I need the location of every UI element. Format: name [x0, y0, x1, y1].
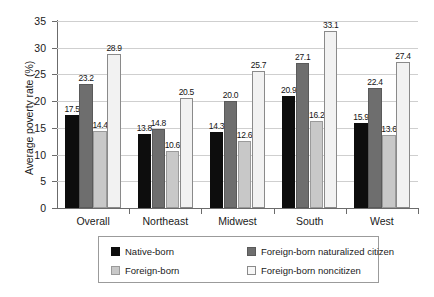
x-category-label: West [337, 215, 427, 227]
x-tick-separator [346, 209, 347, 214]
y-tick-label: 5 [18, 176, 46, 187]
bar [93, 131, 107, 208]
y-tick-label: 35 [18, 16, 46, 27]
legend-label: Foreign-born naturalized citizen [261, 246, 394, 257]
bar [368, 88, 382, 208]
bar-value-label: 25.7 [247, 61, 271, 70]
bar [65, 115, 79, 209]
bar-value-label: 27.4 [391, 52, 415, 61]
bar-value-label: 23.2 [74, 74, 98, 83]
bar [107, 54, 121, 208]
legend-swatch-icon [111, 266, 120, 275]
x-tick-separator [418, 209, 419, 214]
bar [252, 71, 266, 208]
y-tick-label: 25 [18, 69, 46, 80]
bar [138, 134, 152, 208]
legend-label: Foreign-born [125, 265, 179, 276]
legend-item: Foreign-born naturalized citizen [247, 246, 394, 257]
x-tick-separator [274, 209, 275, 214]
bar [180, 98, 194, 208]
bar-value-label: 28.9 [102, 44, 126, 53]
bar [166, 151, 180, 208]
legend-swatch-icon [247, 247, 256, 256]
bar [324, 31, 338, 208]
legend-item: Native-born [111, 246, 174, 257]
bar-value-label: 14.8 [147, 119, 171, 128]
bar-value-label: 22.4 [363, 78, 387, 87]
y-tick-label: 15 [18, 123, 46, 134]
legend-swatch-icon [247, 266, 256, 275]
bar [282, 96, 296, 208]
bar-value-label: 20.5 [175, 88, 199, 97]
bar [79, 84, 93, 208]
bar [396, 62, 410, 208]
grouped-bar-chart: Average poverty rate (%) 05101520253035 … [0, 0, 434, 297]
x-tick-separator [129, 209, 130, 214]
y-tick-mark [52, 208, 57, 209]
legend-item: Foreign-born [111, 265, 179, 276]
legend-label: Foreign-born noncitizen [261, 265, 361, 276]
x-tick-separator [201, 209, 202, 214]
legend-item: Foreign-born noncitizen [247, 265, 361, 276]
bar [296, 63, 310, 208]
bar [310, 121, 324, 208]
bar [382, 135, 396, 208]
x-axis-line [57, 208, 419, 209]
y-tick-label: 30 [18, 43, 46, 54]
y-tick-label: 0 [18, 203, 46, 214]
legend-label: Native-born [125, 246, 174, 257]
y-tick-label: 10 [18, 150, 46, 161]
bar-value-label: 33.1 [319, 21, 343, 30]
legend-swatch-icon [111, 247, 120, 256]
bar-value-label: 20.0 [219, 91, 243, 100]
bar [354, 123, 368, 208]
bar [210, 132, 224, 208]
bar-value-label: 27.1 [291, 53, 315, 62]
y-tick-label: 20 [18, 96, 46, 107]
chart-legend: Native-bornForeign-born naturalized citi… [98, 236, 379, 283]
bar [224, 101, 238, 208]
bar [238, 141, 252, 208]
plot-area: 17.523.214.428.913.814.810.620.514.320.0… [57, 21, 418, 208]
